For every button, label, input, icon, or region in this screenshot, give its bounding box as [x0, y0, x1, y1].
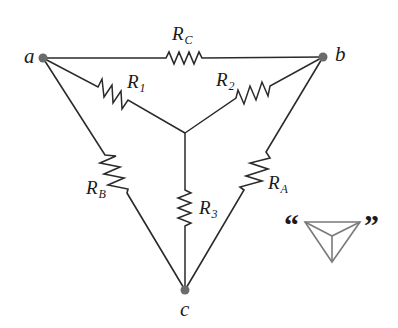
node-b-label: b [335, 44, 346, 65]
resistor-r1-label: R1 [127, 72, 146, 91]
wire-ac-resistor-rb [43, 58, 185, 290]
close-quote: ” [364, 210, 379, 240]
node-c-label: c [180, 299, 189, 320]
resistor-r3-label: R3 [199, 198, 218, 217]
wire-ab-resistor-rc [43, 52, 323, 64]
resistor-r2-label: R2 [216, 70, 235, 89]
resistor-ra-label: RA [268, 173, 288, 192]
node-c-dot [181, 286, 190, 295]
wire-a-center-resistor-r1 [43, 58, 185, 133]
resistor-rb-label: RB [86, 178, 106, 197]
resistor-rc-label: RC [172, 24, 193, 43]
delta-network [43, 52, 323, 290]
wire-b-center-resistor-r2 [185, 57, 323, 133]
node-a-dot [39, 54, 48, 63]
delta-wye-icon [305, 222, 360, 262]
wire-center-c-resistor-r3 [178, 133, 191, 290]
open-quote: “ [284, 210, 299, 240]
node-b-dot [319, 53, 328, 62]
wire-bc-resistor-ra [185, 57, 323, 290]
node-a-label: a [24, 46, 35, 67]
